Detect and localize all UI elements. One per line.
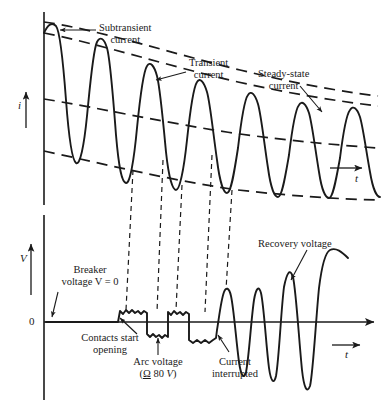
waveform-figure: i t Subtransient current Transient curre… [0,0,391,412]
transient-current-label: Transient current [189,57,228,81]
voltage-zero-tick-label: 0 [29,315,35,327]
contacts-opening-label: Contacts start opening [58,332,162,356]
arc-voltage-label: Arc voltage (Ω 80 V) [116,356,200,380]
recovery-voltage-label: Recovery voltage [258,238,332,250]
transient-current-line1: Transient [189,57,228,69]
connector-5 [226,190,232,290]
contacts-opening-line2: opening [58,344,162,356]
breaker-voltage-label: Breaker voltage V = 0 [44,264,136,288]
breaker-voltage-line2: voltage V = 0 [44,276,136,288]
mean-offset-envelope [44,99,378,148]
short-circuit-current-waveform [44,24,380,198]
subtransient-current-line1: Subtransient [99,22,152,34]
breaker-voltage-line1: Breaker [44,264,136,276]
transient-current-line2: current [189,69,228,81]
current-interrupted-label: Current interrupted [198,356,272,380]
arc-voltage-magnitude: 80 [151,368,167,379]
connector-2 [157,160,163,312]
current-interrupted-line1: Current [198,356,272,368]
transient-leader [156,72,186,80]
steady-state-current-label: Steady-state current [258,68,309,92]
connector-3 [176,185,182,310]
current-interrupted-leader [218,335,229,352]
breaker-voltage-leader [52,292,58,317]
current-axis-label: i [18,99,21,111]
arc-voltage-paren-close: ) [173,368,177,379]
connector-4 [205,155,212,312]
arc-voltage-line1: Arc voltage [116,356,200,368]
time-axis-label-top: t [355,172,358,184]
subtransient-current-label: Subtransient current [99,22,152,46]
arc-voltage-approx-symbol: Ω [143,368,151,379]
steady-state-current-line1: Steady-state [258,68,309,80]
subtransient-current-line2: current [99,34,152,46]
steady-state-current-line2: current [258,80,309,92]
connector-1 [126,170,133,310]
voltage-axis-label: V [20,252,27,264]
recovery-voltage-leader [291,250,307,280]
top-panel [26,12,380,205]
zero-crossing-connectors [126,155,232,312]
current-interrupted-line2: interrupted [198,368,272,380]
time-axis-label-bottom: t [345,348,348,360]
contacts-opening-line1: Contacts start [58,332,162,344]
arc-voltage-value: (Ω 80 V) [116,368,200,380]
